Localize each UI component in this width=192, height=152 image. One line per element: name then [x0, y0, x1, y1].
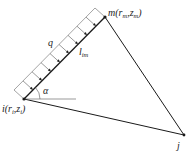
- load-arrow: [41, 63, 50, 71]
- node-i: [22, 97, 25, 100]
- node-j: [183, 134, 186, 137]
- distributed-load: [14, 8, 105, 99]
- node-j-label: j: [175, 140, 180, 151]
- edge-im: [24, 17, 105, 99]
- load-arrow: [68, 35, 77, 43]
- node-m: [103, 15, 106, 18]
- load-arrow: [32, 72, 41, 80]
- angle-label: α: [43, 85, 49, 96]
- element-diagram: m(rm,zm) i(ri,zi) j q lim α: [0, 0, 192, 152]
- load-arrow: [59, 44, 68, 52]
- edge-mj: [105, 17, 184, 135]
- load-label: q: [48, 37, 53, 48]
- angle-arc: [36, 88, 41, 99]
- node-i-label: i(ri,zi): [2, 103, 26, 115]
- load-arrow: [77, 26, 86, 34]
- node-m-label: m(rm,zm): [108, 7, 142, 19]
- load-arrow: [23, 81, 32, 89]
- load-arrow: [86, 17, 95, 25]
- load-arrow: [50, 54, 59, 62]
- edge-length-label: lim: [79, 46, 89, 58]
- edge-ij: [24, 99, 184, 135]
